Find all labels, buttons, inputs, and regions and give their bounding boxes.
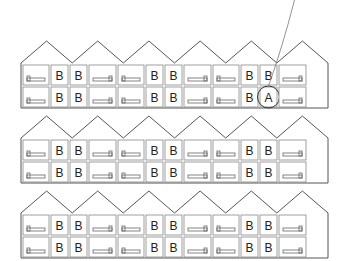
bathroom: B <box>146 215 163 235</box>
bathroom: B <box>70 140 87 160</box>
bedroom <box>118 65 144 85</box>
room-label: B <box>264 241 272 255</box>
bathroom: B <box>241 215 258 235</box>
bedroom <box>89 65 116 85</box>
bedroom <box>184 237 211 257</box>
room-label: B <box>169 144 177 158</box>
room-label: A <box>264 91 272 105</box>
bedroom <box>89 87 116 107</box>
room-label: B <box>150 69 158 83</box>
bathroom: B <box>165 215 182 235</box>
bathroom: B <box>241 87 258 107</box>
bathroom: B <box>165 162 182 182</box>
bedroom <box>118 237 144 257</box>
bathroom: B <box>51 65 68 85</box>
room-label: B <box>169 166 177 180</box>
room-label: B <box>150 144 158 158</box>
bathroom: B <box>260 162 277 182</box>
bathroom: B <box>70 215 87 235</box>
bedroom <box>23 162 49 182</box>
room-label: B <box>245 241 253 255</box>
bathroom: B <box>146 140 163 160</box>
bathroom: B <box>51 140 68 160</box>
bedroom <box>184 162 211 182</box>
bedroom <box>23 237 49 257</box>
building-1: BBBBBBBBBBBA <box>21 0 328 108</box>
bathroom: B <box>146 65 163 85</box>
room-label: B <box>264 219 272 233</box>
room-label: B <box>245 166 253 180</box>
bedroom <box>213 87 239 107</box>
bathroom: B <box>51 162 68 182</box>
room-label: B <box>150 241 158 255</box>
room-a: A <box>260 87 277 107</box>
bathroom: B <box>241 65 258 85</box>
bathroom: B <box>260 215 277 235</box>
room-label: B <box>169 91 177 105</box>
bedroom <box>213 215 239 235</box>
bathroom: B <box>70 65 87 85</box>
room-label: B <box>74 144 82 158</box>
bedroom <box>184 87 211 107</box>
bathroom: B <box>146 87 163 107</box>
building-3: BBBBBBBBBBBB <box>21 191 328 258</box>
room-label: B <box>55 91 63 105</box>
terraced-housing-diagram: BBBBBBBBBBBABBBBBBBBBBBBBBBBBBBBBBBB <box>0 0 346 261</box>
bedroom <box>23 140 49 160</box>
room-label: B <box>169 219 177 233</box>
bedroom <box>213 140 239 160</box>
room-label: B <box>150 166 158 180</box>
bedroom <box>184 140 211 160</box>
bedroom <box>184 65 211 85</box>
bathroom: B <box>70 87 87 107</box>
bedroom <box>213 162 239 182</box>
bedroom <box>118 162 144 182</box>
bedroom <box>279 162 306 182</box>
bedroom <box>279 215 306 235</box>
room-label: B <box>150 219 158 233</box>
bedroom <box>23 65 49 85</box>
bathroom: B <box>51 237 68 257</box>
room-label: B <box>74 219 82 233</box>
bedroom <box>279 237 306 257</box>
bedroom <box>89 215 116 235</box>
bedroom <box>23 87 49 107</box>
bedroom <box>279 65 306 85</box>
room-label: B <box>245 91 253 105</box>
bathroom: B <box>51 215 68 235</box>
bedroom <box>184 215 211 235</box>
room-label: B <box>74 241 82 255</box>
bathroom: B <box>241 237 258 257</box>
room-label: B <box>150 91 158 105</box>
room-label: B <box>245 69 253 83</box>
bathroom: B <box>260 237 277 257</box>
bedroom <box>279 140 306 160</box>
bathroom: B <box>241 162 258 182</box>
bathroom: B <box>165 65 182 85</box>
room-label: B <box>55 69 63 83</box>
room-label: B <box>245 144 253 158</box>
bathroom: B <box>165 87 182 107</box>
room-label: B <box>55 241 63 255</box>
room-label: B <box>264 166 272 180</box>
bathroom: B <box>165 237 182 257</box>
bedroom <box>118 87 144 107</box>
building-2: BBBBBBBBBBBB <box>21 116 328 183</box>
bathroom: B <box>260 140 277 160</box>
bathroom: B <box>70 237 87 257</box>
bedroom <box>213 237 239 257</box>
bathroom: B <box>146 237 163 257</box>
bathroom: B <box>146 162 163 182</box>
room-label: B <box>74 91 82 105</box>
room-label: B <box>55 219 63 233</box>
bathroom: B <box>51 87 68 107</box>
room-label: B <box>245 219 253 233</box>
room-label: B <box>74 69 82 83</box>
room-label: B <box>55 166 63 180</box>
bathroom: B <box>165 140 182 160</box>
bathroom: B <box>70 162 87 182</box>
room-label: B <box>169 241 177 255</box>
room-label: B <box>74 166 82 180</box>
room-label: B <box>169 69 177 83</box>
bedroom <box>118 215 144 235</box>
